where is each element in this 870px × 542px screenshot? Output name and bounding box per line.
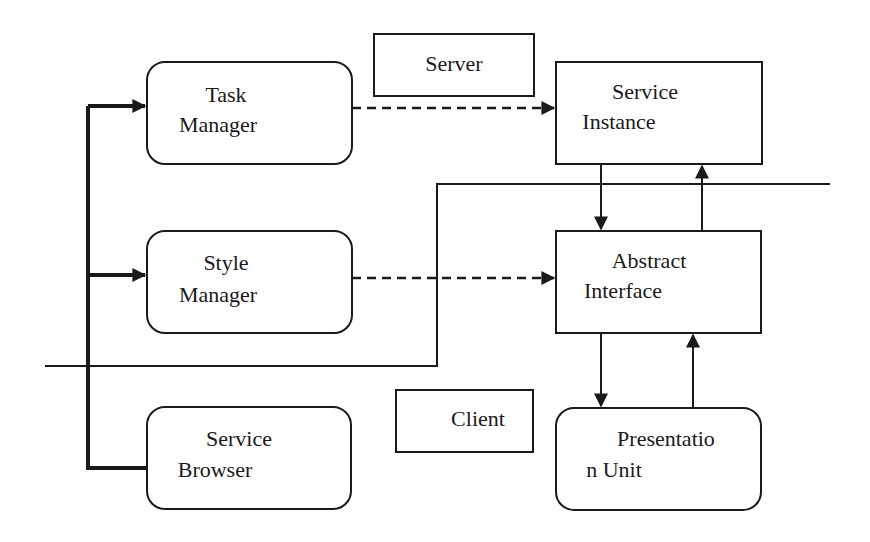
service-browser-line2: Browser xyxy=(178,457,253,482)
service-instance-line1: Service xyxy=(612,79,678,104)
server-label-text: Server xyxy=(425,51,483,76)
server-zone-label: Server xyxy=(374,34,534,96)
style-manager-line2: Manager xyxy=(179,282,258,307)
architecture-diagram: Server Client Task Manager Style Manager… xyxy=(0,0,870,542)
service-browser-bus xyxy=(88,106,147,468)
presentation-unit-line1: Presentatio xyxy=(617,426,715,451)
service-instance-line2: Instance xyxy=(582,109,655,134)
client-label-text: Client xyxy=(451,406,505,431)
task-manager-line2: Manager xyxy=(179,112,258,137)
node-service-browser: Service Browser xyxy=(147,407,351,509)
presentation-unit-line2: n Unit xyxy=(586,457,642,482)
node-task-manager: Task Manager xyxy=(147,62,352,164)
node-service-instance: Service Instance xyxy=(556,62,762,164)
node-abstract-interface: Abstract Interface xyxy=(556,231,761,333)
node-presentation-unit: Presentatio n Unit xyxy=(556,408,761,510)
service-browser-line1: Service xyxy=(206,426,272,451)
abstract-interface-line1: Abstract xyxy=(612,248,687,273)
task-manager-line1: Task xyxy=(205,82,246,107)
style-manager-line1: Style xyxy=(203,250,248,275)
abstract-interface-line2: Interface xyxy=(584,278,662,303)
node-style-manager: Style Manager xyxy=(147,231,352,333)
client-zone-label: Client xyxy=(396,390,533,452)
